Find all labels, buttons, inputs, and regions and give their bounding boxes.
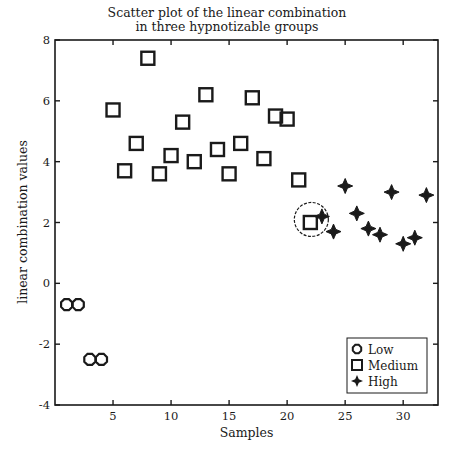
- data-point-low: [84, 354, 95, 365]
- data-point-medium: [304, 216, 317, 229]
- data-point-medium: [292, 173, 305, 186]
- data-point-medium: [188, 155, 201, 168]
- legend-label: High: [368, 375, 398, 389]
- y-tick-label: 0: [43, 276, 50, 290]
- x-tick-label: 25: [338, 409, 353, 423]
- data-point-medium: [118, 164, 131, 177]
- y-tick-label: -2: [39, 337, 50, 351]
- data-point-low: [61, 299, 72, 310]
- data-point-medium: [165, 149, 178, 162]
- legend-label: Low: [368, 343, 394, 357]
- legend: LowMediumHigh: [347, 338, 427, 393]
- data-point-medium: [257, 152, 270, 165]
- data-points: [61, 52, 434, 365]
- scatter-plot: 51015202530-4-202468 LowMediumHigh: [0, 0, 454, 456]
- data-point-high: [349, 206, 364, 221]
- data-point-medium: [211, 143, 224, 156]
- data-point-medium: [246, 91, 259, 104]
- data-point-medium: [234, 137, 247, 150]
- data-point-low: [73, 299, 84, 310]
- legend-item-medium: Medium: [352, 359, 419, 373]
- data-point-medium: [223, 167, 236, 180]
- data-point-medium: [176, 116, 189, 129]
- data-point-medium: [130, 137, 143, 150]
- x-tick-label: 20: [280, 409, 295, 423]
- y-tick-label: 6: [43, 94, 50, 108]
- x-tick-label: 10: [164, 409, 179, 423]
- y-tick-label: -4: [39, 398, 50, 412]
- data-point-high: [338, 179, 353, 194]
- x-tick-label: 30: [396, 409, 411, 423]
- y-tick-label: 2: [43, 216, 50, 230]
- y-tick-label: 8: [43, 33, 50, 47]
- x-tick-label: 5: [109, 409, 116, 423]
- data-point-medium: [141, 52, 154, 65]
- data-point-high: [419, 188, 434, 203]
- data-point-medium: [107, 103, 120, 116]
- data-point-medium: [153, 167, 166, 180]
- y-tick-label: 4: [43, 155, 50, 169]
- data-point-high: [384, 185, 399, 200]
- data-point-medium: [199, 88, 212, 101]
- data-point-low: [96, 354, 107, 365]
- x-tick-label: 15: [222, 409, 237, 423]
- legend-label: Medium: [368, 359, 419, 373]
- data-point-high: [326, 224, 341, 239]
